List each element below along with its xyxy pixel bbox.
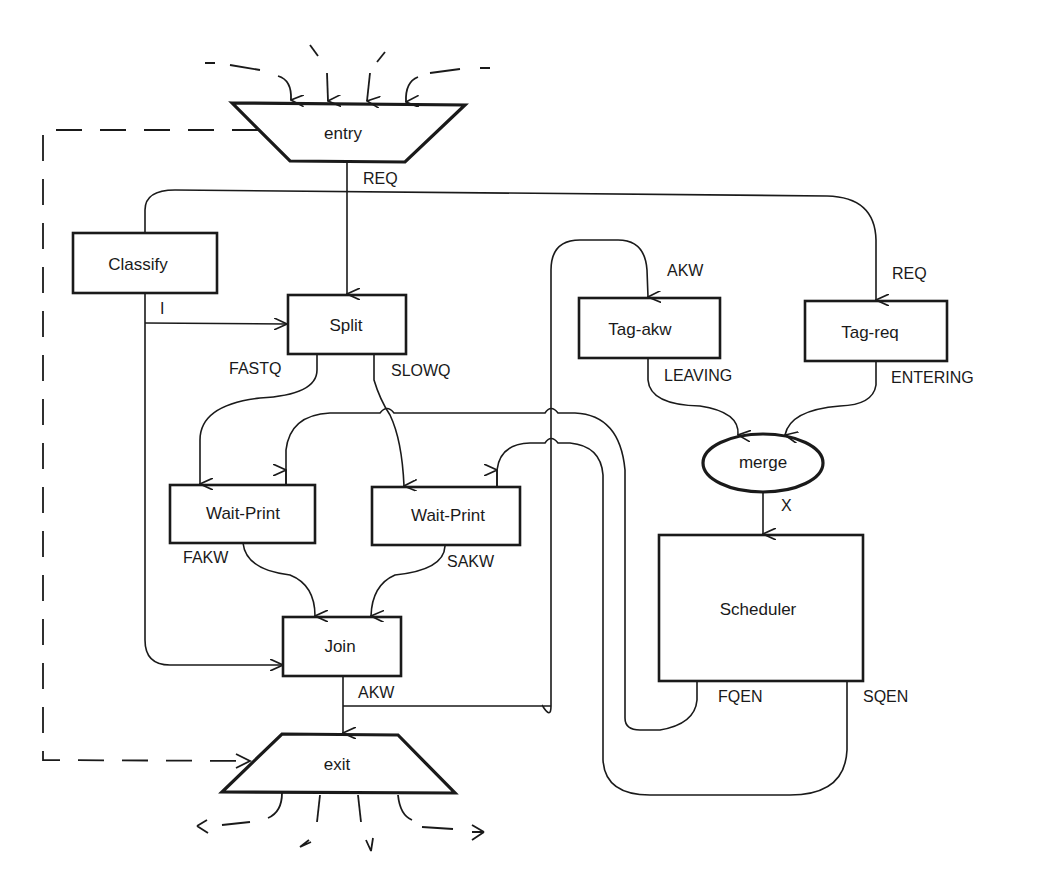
- entry-inputs: [205, 45, 490, 102]
- edge-label-akw-join: AKW: [358, 684, 394, 702]
- edge-label-entering: ENTERING: [891, 369, 974, 387]
- edge-label-fqen: FQEN: [718, 688, 762, 706]
- exit-node: exit: [324, 755, 350, 775]
- edge-label-x: X: [781, 497, 792, 515]
- classify-node: Classify: [108, 255, 168, 275]
- edge-label-sakw: SAKW: [447, 553, 494, 571]
- edge-label-i: I: [160, 300, 164, 318]
- feedback-dashed-line: [43, 130, 258, 761]
- merge-node: merge: [739, 453, 787, 473]
- wait-print-fast-node: Wait-Print: [206, 504, 280, 524]
- tag-req-node: Tag-req: [841, 323, 899, 343]
- join-node: Join: [324, 637, 355, 657]
- exit-outputs: [197, 793, 484, 851]
- wait-print-slow-node: Wait-Print: [411, 506, 485, 526]
- edge-label-slowq: SLOWQ: [391, 362, 451, 380]
- edge-label-sqen: SQEN: [863, 688, 908, 706]
- split-node: Split: [329, 316, 362, 336]
- entry-node: entry: [324, 124, 362, 144]
- tag-akw-node: Tag-akw: [608, 320, 671, 340]
- edge-label-req-entry: REQ: [363, 170, 398, 188]
- edge-label-fastq: FASTQ: [229, 360, 281, 378]
- scheduler-node: Scheduler: [720, 600, 797, 620]
- edge-label-leaving: LEAVING: [664, 367, 732, 385]
- edge-label-fakw: FAKW: [183, 549, 228, 567]
- edge-label-akw-tag: AKW: [667, 262, 703, 280]
- diagram-canvas: [0, 0, 1052, 893]
- edge-label-req-tag: REQ: [892, 265, 927, 283]
